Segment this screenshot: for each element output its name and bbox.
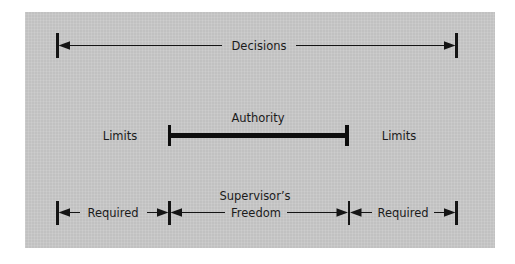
required-left-arrowhead-start: [59, 208, 71, 217]
diagram-svg: Decisions Limits Limits Authority Requir…: [0, 0, 515, 264]
decisions-row: Decisions: [58, 33, 457, 58]
limits-left-label: Limits: [103, 129, 138, 143]
limits-right-label: Limits: [382, 129, 417, 143]
freedom-right-arrowhead: [337, 208, 349, 217]
required-left-label: Required: [87, 206, 138, 220]
required-right-label: Required: [377, 206, 428, 220]
supervisors-label: Supervisor’s: [219, 189, 290, 203]
authority-row: Limits Limits Authority: [103, 111, 417, 147]
required-left-arrowhead-end: [157, 208, 169, 217]
decisions-left-arrowhead: [59, 41, 71, 50]
authority-label: Authority: [231, 111, 284, 125]
decisions-right-arrowhead: [444, 41, 456, 50]
required-right-arrowhead-start: [350, 208, 362, 217]
freedom-label: Freedom: [231, 206, 281, 220]
decisions-label: Decisions: [232, 39, 287, 53]
required-right-arrowhead-end: [444, 208, 456, 217]
freedom-left-arrowhead: [171, 208, 183, 217]
required-row: Required Supervisor’s Freedom Required: [58, 189, 457, 226]
figure-canvas: Decisions Limits Limits Authority Requir…: [0, 0, 515, 264]
